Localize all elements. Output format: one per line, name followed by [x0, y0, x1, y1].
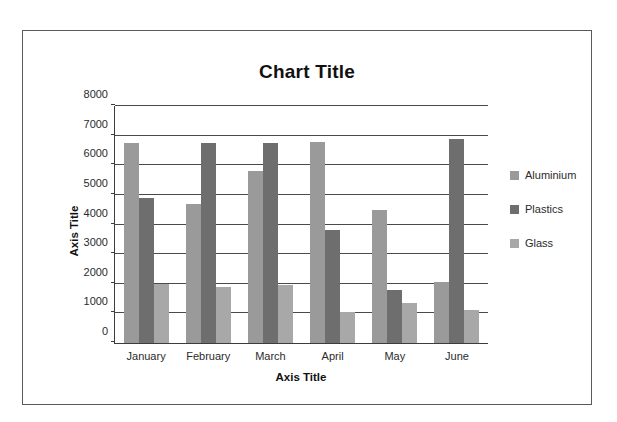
bar-group: January — [115, 106, 177, 343]
bar[interactable] — [402, 303, 417, 343]
bar[interactable] — [310, 142, 325, 343]
bar[interactable] — [372, 210, 387, 343]
bar[interactable] — [139, 198, 154, 343]
bar[interactable] — [216, 287, 231, 343]
x-tick-label: February — [186, 350, 230, 362]
legend-item[interactable]: Plastics — [510, 203, 590, 215]
x-tick-label: January — [127, 350, 166, 362]
bar[interactable] — [278, 285, 293, 343]
legend-item[interactable]: Aluminium — [510, 169, 590, 181]
bar[interactable] — [434, 282, 449, 343]
y-tick-label: 8000 — [84, 88, 108, 100]
bar[interactable] — [464, 310, 479, 343]
x-tick-label: April — [322, 350, 344, 362]
y-tick-label: 5000 — [84, 177, 108, 189]
bar[interactable] — [124, 143, 139, 343]
legend-item[interactable]: Glass — [510, 237, 590, 249]
bar[interactable] — [186, 204, 201, 343]
bar[interactable] — [263, 143, 278, 343]
bar-group: May — [364, 106, 426, 343]
y-tick-label: 0 — [102, 325, 108, 337]
bar[interactable] — [248, 171, 263, 343]
legend-label: Glass — [525, 237, 553, 249]
chart-title: Chart Title — [23, 61, 591, 83]
bar[interactable] — [201, 143, 216, 343]
chart-legend: AluminiumPlasticsGlass — [510, 169, 590, 271]
legend-swatch-icon — [510, 171, 519, 180]
bar[interactable] — [154, 284, 169, 343]
bar[interactable] — [387, 290, 402, 343]
x-tick-label: March — [255, 350, 286, 362]
y-axis-title: Axis Title — [68, 206, 80, 257]
y-tick-label: 3000 — [84, 236, 108, 248]
legend-swatch-icon — [510, 239, 519, 248]
x-tick-label: June — [445, 350, 469, 362]
plot-area: 800070006000500040003000200010000 Januar… — [114, 106, 488, 344]
bar-group: February — [177, 106, 239, 343]
y-tick-label: 1000 — [84, 295, 108, 307]
chart-frame: Chart Title Axis Title 80007000600050004… — [22, 30, 592, 405]
y-tick-label: 2000 — [84, 266, 108, 278]
y-tick-mark — [111, 104, 115, 105]
x-tick-label: May — [384, 350, 405, 362]
y-tick-label: 7000 — [84, 118, 108, 130]
bar-group: June — [426, 106, 488, 343]
bar-group: April — [302, 106, 364, 343]
bar[interactable] — [325, 230, 340, 343]
plot-wrap: 800070006000500040003000200010000 Januar… — [114, 106, 488, 344]
x-axis-title: Axis Title — [114, 371, 488, 383]
legend-label: Aluminium — [525, 169, 576, 181]
bar-group: March — [239, 106, 301, 343]
bar[interactable] — [340, 312, 355, 343]
bar[interactable] — [449, 139, 464, 343]
y-tick-label: 6000 — [84, 147, 108, 159]
y-tick-label: 4000 — [84, 207, 108, 219]
legend-label: Plastics — [525, 203, 563, 215]
bar-groups: JanuaryFebruaryMarchAprilMayJune — [115, 106, 488, 343]
legend-swatch-icon — [510, 205, 519, 214]
